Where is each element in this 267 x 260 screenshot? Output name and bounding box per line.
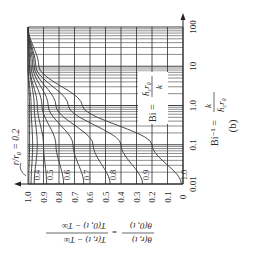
theta-tick: 0.6 <box>85 191 95 203</box>
theta-tick: 0.1 <box>163 191 173 202</box>
curve-label: 0.6 <box>62 170 72 181</box>
bi-inverse-formula: Bi⁻¹ = k h̄cr₀ <box>203 92 227 146</box>
bi-inverse-denominator: h̄cr₀ <box>216 98 227 112</box>
bi-numerator: h̄cr₀ <box>141 82 152 96</box>
theta-tick: 0 <box>178 194 188 199</box>
bi-formula: Bi = h̄cr₀ k <box>138 72 168 124</box>
ylabel-right-denominator: T(0, t) − T∞ <box>62 221 107 231</box>
theta-tick-labels: 00.10.20.30.40.50.60.70.80.91.0 <box>23 191 188 203</box>
bi-inverse-tick: 1.0 <box>188 99 198 111</box>
axis-arrow-up-icon <box>181 13 186 20</box>
bi-inverse-prefix: Bi⁻¹ = <box>209 120 220 146</box>
bi-inverse-numerator: k <box>203 103 213 108</box>
curve-label: 0.8 <box>108 170 118 181</box>
theta-tick: 0.4 <box>116 191 126 203</box>
curve-param-label: r/r₀ = 0.2 <box>11 129 21 166</box>
curve-label: 0.5 <box>45 170 55 181</box>
theta-axis-label: θ(r, t) θ(0, t) = T(r, t) − T∞ T(0, t) −… <box>46 221 154 245</box>
bi-inverse-tick: 10 <box>188 61 198 71</box>
chart-svg: 0.40.50.60.70.80.91.0 0.010.11.010100 00… <box>0 0 267 260</box>
chart-figure: 0.40.50.60.70.80.91.0 0.010.11.010100 00… <box>0 0 267 260</box>
theta-tick: 0.7 <box>70 191 80 203</box>
panel-label: (b) <box>226 119 239 132</box>
bi-inverse-tick-labels: 0.010.11.010100 <box>188 20 198 192</box>
bi-inverse-tick: 100 <box>188 20 198 34</box>
bi-inverse-tick: 0.1 <box>188 139 198 150</box>
bi-inverse-tick: 0.01 <box>188 176 198 192</box>
curve-param-leader <box>20 163 26 176</box>
ylabel-right-numerator: T(r, t) − T∞ <box>64 235 107 245</box>
theta-tick: 0.5 <box>101 191 111 203</box>
ylabel-equals: = <box>112 227 117 237</box>
axis-arrow-left-icon <box>14 182 21 187</box>
curve-label: 0.9 <box>141 170 151 181</box>
theta-tick: 0.3 <box>132 191 142 203</box>
ylabel-left-denominator: θ(0, t) <box>130 221 152 231</box>
theta-tick: 0.2 <box>147 191 157 202</box>
curve-labels: 0.40.50.60.70.80.91.0 <box>32 169 189 180</box>
curve-label: 0.4 <box>32 169 42 180</box>
theta-tick: 0.9 <box>39 191 49 203</box>
theta-tick: 0.8 <box>54 191 64 203</box>
curve-label: 0.7 <box>82 170 92 181</box>
theta-tick: 1.0 <box>23 191 33 203</box>
ylabel-left-numerator: θ(r, t) <box>132 235 152 245</box>
bi-prefix: Bi = <box>147 104 158 122</box>
